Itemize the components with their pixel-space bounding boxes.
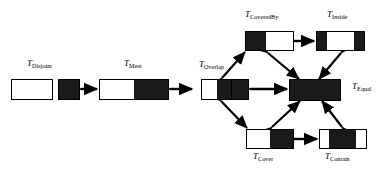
segment-black (290, 80, 340, 100)
edge-inside-equal (319, 53, 341, 79)
segment-white-right (356, 130, 366, 148)
label-meet: TMeet (124, 59, 142, 69)
node-disjoint-white-box (11, 79, 53, 100)
label-overlap: TOverlap (199, 60, 224, 70)
label-equal: TEqual (352, 82, 372, 92)
segment-black-right (354, 32, 364, 50)
segment-white (247, 130, 270, 148)
node-contain (319, 129, 367, 149)
segment-black-left (217, 80, 231, 99)
label-inside-subscript: Inside (332, 13, 347, 20)
edge-overlap-cover (221, 101, 247, 128)
segment-black (59, 80, 79, 99)
node-disjoint-black-box (58, 79, 80, 100)
edge-contain-equal (322, 101, 342, 127)
label-equal-subscript: Equal (357, 85, 371, 92)
segment-black-left (317, 32, 327, 50)
node-inside (316, 31, 365, 51)
node-cover (246, 129, 294, 149)
segment-white-middle (327, 32, 353, 50)
label-cover: TCover (253, 152, 273, 162)
segment-black-right (231, 80, 248, 99)
segment-white (12, 80, 52, 99)
segment-black (134, 80, 168, 99)
segment-white-left (320, 130, 329, 148)
node-overlap (201, 79, 249, 100)
segment-black (246, 32, 266, 50)
label-contain-subscript: Contain (330, 155, 350, 162)
node-equal (289, 79, 341, 101)
node-coveredby (245, 31, 294, 51)
segment-white (202, 80, 217, 99)
topological-relations-diagram: TDisjoint TMeet TOverlap TCoveredBy TIns… (0, 0, 387, 176)
node-meet (99, 79, 169, 100)
label-disjoint: TDisjoint (27, 59, 52, 69)
label-inside: TInside (327, 10, 347, 20)
edge-coveredby-equal (268, 53, 299, 79)
segment-black (270, 130, 293, 148)
segment-white (100, 80, 134, 99)
edge-overlap-coveredby (222, 52, 245, 78)
label-cover-subscript: Cover (258, 155, 273, 162)
segment-white (266, 32, 293, 50)
segment-black-middle (329, 130, 356, 148)
label-coveredby: TCoveredBy (245, 10, 278, 20)
edge-cover-equal (272, 101, 300, 127)
label-overlap-subscript: Overlap (204, 63, 224, 70)
label-disjoint-subscript: Disjoint (32, 62, 52, 69)
label-coveredby-subscript: CoveredBy (250, 13, 278, 20)
label-meet-subscript: Meet (129, 62, 142, 69)
label-contain: TContain (325, 152, 350, 162)
